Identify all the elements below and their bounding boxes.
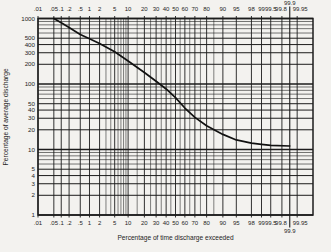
x-tick-label-top: 70 [192, 6, 199, 12]
y-tick-label: 4 [32, 172, 36, 179]
x-tick-label-top: 2 [98, 6, 102, 12]
y-tick-label: 200 [25, 60, 36, 67]
y-tick-label: 30 [28, 114, 35, 121]
x-tick-label-bottom: 2 [98, 220, 102, 226]
x-tick-label-top: 1 [88, 6, 92, 12]
x-tick-label-bottom: .05 [50, 220, 59, 226]
x-tick-label-bottom: 30 [153, 220, 160, 226]
x-tick-label-bottom: 70 [192, 220, 199, 226]
x-axis-title: Percentage of time discharge exceeded [117, 234, 234, 242]
x-tick-label-top: 50 [172, 6, 179, 12]
x-tick-label-top: 90 [220, 6, 227, 12]
y-axis-title: Percentage of average discharge [2, 68, 10, 165]
y-tick-label: 2 [32, 191, 36, 198]
x-tick-label-bottom: .2 [67, 220, 73, 226]
x-tick-label-top: 20 [141, 6, 148, 12]
x-tick-label-top: 99.8 [275, 6, 287, 12]
x-tick-label-bottom: .5 [78, 220, 84, 226]
x-tick-label-bottom: .1 [59, 220, 65, 226]
x-tick-label-bottom: 50 [172, 220, 179, 226]
x-tick-label-bottom: 99.9 [284, 228, 296, 234]
x-tick-label-bottom: 60 [182, 220, 189, 226]
chart-canvas: .01.01.05.05.1.1.2.2.5.51122551010202030… [0, 0, 331, 252]
x-tick-label-bottom: 10 [125, 220, 132, 226]
x-tick-label-top: 95 [233, 6, 240, 12]
x-tick-label-bottom: 80 [203, 220, 210, 226]
x-tick-label-top: 10 [125, 6, 132, 12]
y-tick-label: 20 [28, 126, 35, 133]
y-tick-label: 400 [25, 41, 36, 48]
x-tick-label-top: 98 [248, 6, 255, 12]
y-tick-label: 100 [25, 80, 36, 87]
x-tick-label-top: .01 [34, 6, 43, 12]
x-tick-label-top: 99.95 [293, 6, 309, 12]
x-tick-label-bottom: 40 [163, 220, 170, 226]
x-tick-label-top: 40 [163, 6, 170, 12]
x-tick-label-top: .5 [78, 6, 84, 12]
x-tick-label-top: .2 [67, 6, 73, 12]
x-tick-label-bottom: 99.8 [275, 220, 287, 226]
x-tick-label-top: .1 [59, 6, 65, 12]
x-tick-label-bottom: 20 [141, 220, 148, 226]
x-tick-label-bottom: 98 [248, 220, 255, 226]
x-tick-label-bottom: 99.95 [293, 220, 309, 226]
y-tick-label: 1 [32, 211, 36, 218]
y-tick-label: 40 [28, 106, 35, 113]
y-tick-label: 1000 [21, 15, 35, 22]
flow-duration-chart: .01.01.05.05.1.1.2.2.5.51122551010202030… [0, 0, 331, 252]
x-tick-label-bottom: 90 [220, 220, 227, 226]
x-tick-label-top: 5 [113, 6, 117, 12]
y-tick-label: 3 [32, 180, 36, 187]
x-tick-label-top: 80 [203, 6, 210, 12]
x-tick-label-top: 30 [153, 6, 160, 12]
y-tick-label: 10 [28, 146, 35, 153]
x-tick-label-top: 99.9 [284, 0, 296, 6]
x-tick-label-bottom: .01 [34, 220, 43, 226]
x-tick-label-bottom: 5 [113, 220, 117, 226]
x-tick-label-bottom: 95 [233, 220, 240, 226]
x-tick-label-top: 60 [182, 6, 189, 12]
x-tick-label-bottom: 1 [88, 220, 92, 226]
grid-and-curve: .01.01.05.05.1.1.2.2.5.51122551010202030… [21, 0, 313, 234]
y-tick-label: 300 [25, 49, 36, 56]
x-tick-label-top: .05 [50, 6, 59, 12]
